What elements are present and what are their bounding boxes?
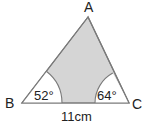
angle-label-b: 52° (34, 89, 54, 102)
angle-label-c: 64° (97, 89, 117, 102)
vertex-label-a: A (84, 0, 93, 14)
vertex-label-b: B (5, 96, 14, 110)
vertex-label-c: C (132, 97, 142, 111)
triangle-diagram: A B C 52° 64° 11cm (0, 0, 144, 130)
side-label-bc: 11cm (61, 110, 92, 123)
